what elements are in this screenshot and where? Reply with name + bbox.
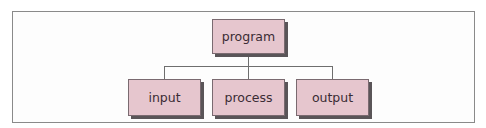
connector-output-vertical — [332, 66, 333, 79]
node-input: input — [128, 79, 201, 116]
node-output: output — [296, 79, 369, 116]
node-program: program — [212, 19, 285, 54]
connector-input-vertical — [164, 66, 165, 79]
connector-horizontal — [164, 66, 333, 67]
node-process-label: process — [224, 90, 272, 105]
node-output-label: output — [312, 90, 353, 105]
node-program-label: program — [222, 29, 275, 44]
node-process: process — [212, 79, 285, 116]
node-input-label: input — [148, 90, 180, 105]
